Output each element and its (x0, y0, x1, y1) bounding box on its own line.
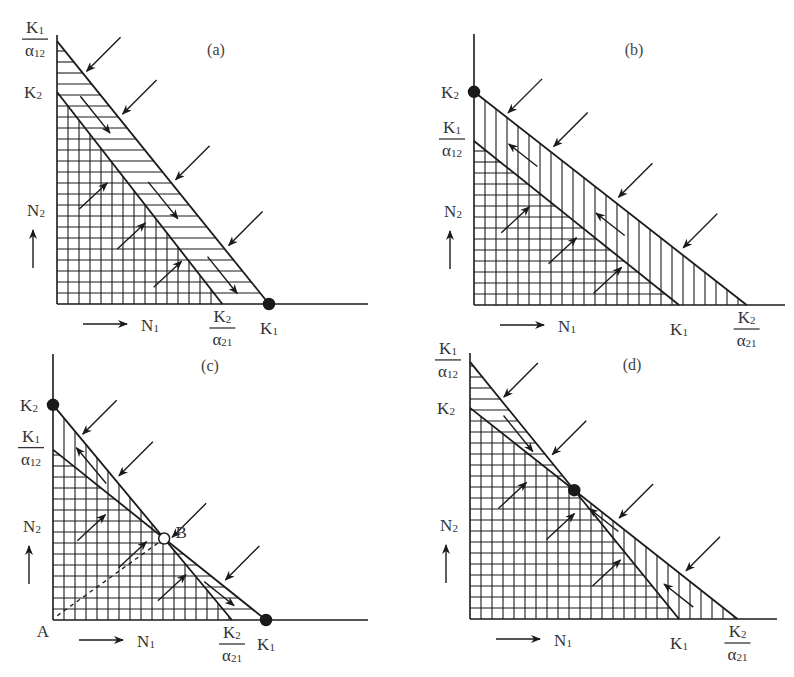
arrow-along-band (509, 144, 538, 166)
fraction-numerator: K2 (213, 307, 231, 326)
origin-label-A: A (37, 622, 50, 641)
arrow-toward-isocline-outside (508, 79, 542, 113)
competition-isocline-figure: K1α12K2K2α21K1N2N1(a)K2K1α12K1K2α21N2N1(… (0, 0, 794, 677)
fraction-denominator: α21 (212, 330, 232, 349)
arrow-toward-isocline-outside (504, 363, 538, 397)
hatching (474, 100, 738, 305)
fraction-numerator: K2 (738, 308, 756, 327)
fraction-denominator: α21 (222, 646, 242, 665)
panel-a: K1α12K2K2α21K1N2N1(a) (22, 18, 368, 349)
panel-d: K1α12K2K1K2α21N2N1(d) (435, 339, 777, 664)
arrow-inside-increase (77, 515, 105, 541)
stable-equilibrium-dot (569, 485, 580, 496)
y-axis-title: N2 (440, 516, 458, 535)
fraction-denominator: α12 (442, 141, 462, 160)
x-tick-label: K1 (260, 319, 278, 338)
figure-canvas: K1α12K2K2α21K1N2N1(a)K2K1α12K1K2α21N2N1(… (0, 0, 794, 677)
fraction-numerator: K1 (443, 118, 461, 137)
isocline-species-1 (57, 41, 269, 304)
fraction-numerator: K2 (729, 622, 747, 641)
stable-equilibrium-dot (48, 399, 59, 410)
panel-title-a: (a) (207, 41, 225, 59)
y-axis-title: N2 (23, 517, 41, 536)
arrow-toward-isocline-outside (119, 442, 153, 476)
y-tick-label: K2 (437, 399, 455, 418)
x-axis-title: N1 (141, 316, 159, 335)
stable-equilibrium-dot (469, 86, 480, 97)
x-tick-label: K1 (670, 634, 688, 653)
arrow-toward-isocline-outside (686, 537, 720, 571)
arrow-toward-isocline-outside (229, 211, 263, 245)
isocline-species-2 (53, 405, 232, 620)
panel-title-d: (d) (623, 356, 642, 374)
x-tick-label: K1 (257, 635, 275, 654)
arrow-toward-isocline-outside (225, 546, 259, 580)
arrow-toward-isocline-outside (123, 80, 157, 114)
fraction-numerator: K1 (22, 427, 40, 446)
fraction-denominator: α12 (25, 41, 45, 60)
fraction-denominator: α12 (438, 362, 458, 381)
x-axis-title: N1 (137, 632, 155, 651)
y-axis-title: N2 (444, 202, 462, 221)
arrow-inside-increase (158, 575, 186, 601)
fraction-numerator: K2 (223, 623, 241, 642)
equilibrium-label-B: B (175, 523, 186, 542)
arrow-toward-isocline-outside (618, 163, 652, 197)
arrow-along-band (204, 582, 234, 606)
x-tick-label-fraction: K2α21 (209, 307, 235, 349)
panel-title-b: (b) (625, 41, 644, 59)
x-axis-title: N1 (554, 631, 572, 650)
arrow-inside-increase (501, 207, 529, 233)
trajectory-arrows (498, 363, 720, 607)
fraction-denominator: α12 (21, 450, 41, 469)
arrow-toward-isocline-outside (552, 421, 586, 455)
arrow-toward-isocline-outside (619, 484, 653, 518)
arrow-along-band (148, 182, 178, 219)
arrow-toward-isocline-outside (176, 146, 210, 180)
y-tick-label-fraction: K1α12 (22, 18, 48, 60)
hatching (53, 418, 252, 620)
trajectory-arrows (79, 37, 262, 293)
x-tick-label-fraction: K2α21 (219, 623, 245, 665)
arrow-toward-isocline-outside (683, 214, 717, 248)
hatching (57, 51, 260, 304)
isocline-species-2 (474, 92, 747, 305)
y-axis-title: N2 (27, 201, 45, 220)
isocline-species-1 (474, 141, 679, 305)
panel-b: K2K1α12K1K2α21N2N1(b) (439, 34, 785, 350)
panel-c: ABK2K1α12K2α21K1N2N1(c) (18, 354, 368, 665)
fraction-denominator: α21 (737, 331, 757, 350)
fraction-denominator: α21 (728, 645, 748, 664)
x-tick-label: K1 (670, 320, 688, 339)
stable-equilibrium-dot (264, 299, 275, 310)
arrow-toward-isocline-outside (87, 37, 121, 71)
x-tick-label-fraction: K2α21 (734, 308, 760, 350)
arrow-inside-increase (547, 514, 575, 540)
arrow-toward-isocline-outside (554, 113, 588, 147)
y-tick-label: K2 (24, 83, 42, 102)
isocline-species-2 (470, 408, 738, 619)
y-tick-label-fraction: K1α12 (439, 118, 465, 160)
unstable-equilibrium-dot (159, 533, 170, 544)
separatrix-dashed (57, 539, 164, 616)
fraction-numerator: K1 (439, 339, 457, 358)
y-tick-label-fraction: K1α12 (18, 427, 44, 469)
arrow-along-band (596, 213, 625, 235)
arrow-toward-isocline-outside (83, 400, 117, 434)
x-axis-title: N1 (558, 317, 576, 336)
panel-title-c: (c) (201, 357, 219, 375)
y-tick-label: K2 (20, 396, 38, 415)
isocline-species-2 (57, 92, 222, 304)
y-tick-label: K2 (441, 83, 459, 102)
x-tick-label-fraction: K2α21 (725, 622, 751, 664)
arrow-along-band (208, 257, 238, 294)
stable-equilibrium-dot (261, 615, 272, 626)
hatching (470, 366, 734, 619)
fraction-numerator: K1 (26, 18, 44, 37)
trajectory-arrows (76, 400, 259, 605)
y-tick-label-fraction: K1α12 (435, 339, 461, 381)
arrow-along-band (76, 448, 106, 484)
